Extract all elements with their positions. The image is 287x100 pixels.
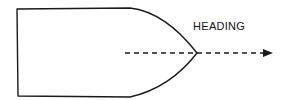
boat-heading-diagram [0,0,287,100]
arrow-right-icon [263,49,273,57]
heading-label: HEADING [193,20,245,32]
